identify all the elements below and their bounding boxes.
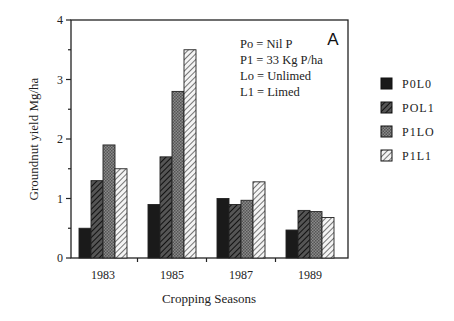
bar-p1lo-1989 [310,212,322,258]
bar-p1lo-1983 [103,145,115,258]
legend-label: P1L1 [402,149,432,163]
legend-swatch-p0l0 [381,78,392,89]
legend-label: POL1 [402,101,435,115]
bar-pol1-1987 [229,204,241,258]
x-tick-label: 1989 [298,268,322,282]
bar-p0l0-1985 [148,204,160,258]
bar-p0l0-1987 [217,199,229,259]
y-tick-label: 4 [57,13,63,27]
bar-group-1983 [79,145,127,258]
annotation-note: L1 = Limed [240,85,301,99]
legend-label: P1LO [402,125,435,139]
x-axis: 1983198519871989 [91,258,322,282]
annotation-note: P1 = 33 Kg P/ha [240,53,323,67]
y-tick-label: 3 [57,73,63,87]
x-tick-label: 1985 [160,268,184,282]
x-tick-label: 1983 [91,268,115,282]
bar-p1l1-1987 [253,182,265,258]
legend-swatch-p1lo [381,126,392,137]
bar-p0l0-1989 [286,230,298,258]
bar-group-1987 [217,182,265,258]
bar-p1lo-1987 [241,200,253,258]
legend-label: P0L0 [402,77,432,91]
bar-pol1-1983 [91,181,103,258]
bar-p0l0-1983 [79,228,91,258]
annotation-note: Po = Nil P [240,37,293,51]
x-axis-title: Cropping Seasons [162,291,256,306]
bar-pol1-1985 [160,157,172,258]
annotation-notes: Po = Nil P P1 = 33 Kg P/ha Lo = Unlimed … [240,37,323,99]
y-tick-label: 1 [57,192,63,206]
legend-swatch-pol1 [381,102,392,113]
bar-p1l1-1983 [115,169,127,258]
bar-group-1989 [286,210,334,258]
bar-group-1985 [148,50,196,258]
bar-p1l1-1989 [322,218,334,258]
y-axis-title: Groundnut yield Mg/ha [26,77,41,200]
legend: P0L0 POL1 P1LO P1L1 [381,77,435,163]
annotation-note: Lo = Unlimed [240,69,312,83]
panel-label: A [327,30,339,49]
grouped-bar-chart: 01234 1983198519871989 Groundnut yield M… [0,0,454,321]
bar-p1l1-1985 [184,50,196,258]
legend-swatch-p1l1 [381,150,392,161]
y-tick-label: 0 [57,251,63,265]
y-tick-label: 2 [57,132,63,146]
bar-pol1-1989 [298,210,310,258]
x-tick-label: 1987 [229,268,253,282]
y-axis: 01234 [57,13,71,265]
bar-p1lo-1985 [172,91,184,258]
